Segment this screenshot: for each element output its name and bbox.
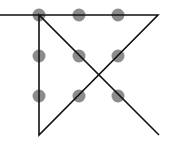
nine-dot-puzzle-diagram — [0, 0, 169, 144]
dot-9 — [112, 90, 125, 103]
dot-8 — [73, 90, 86, 103]
background — [0, 0, 169, 144]
